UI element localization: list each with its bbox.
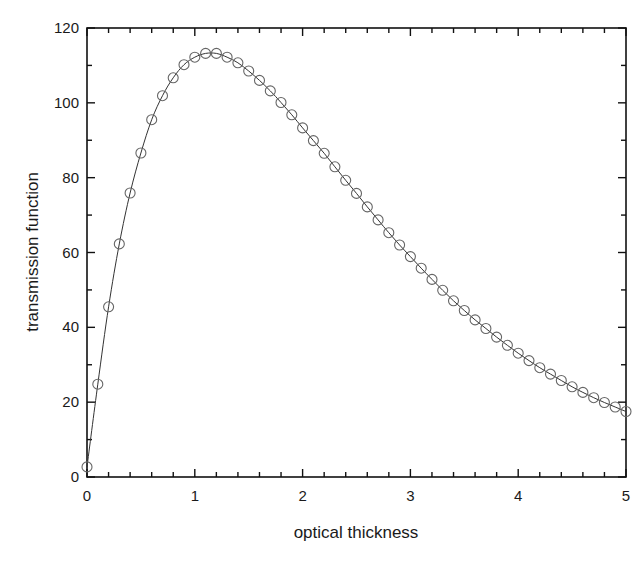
x-axis-title: optical thickness [294,523,419,542]
y-tick-label: 0 [71,468,79,485]
y-tick-label: 60 [62,244,79,261]
y-axis-title: transmission function [23,172,42,332]
x-tick-label: 2 [298,487,306,504]
x-tick-label: 5 [622,487,630,504]
y-tick-label: 80 [62,169,79,186]
y-tick-label: 100 [54,94,79,111]
x-tick-label: 1 [191,487,199,504]
y-tick-label: 120 [54,19,79,36]
x-tick-label: 3 [406,487,414,504]
transmission-chart: 012345 020406080100120 optical thickness… [0,0,643,565]
y-axis-tick-labels: 020406080100120 [54,19,79,485]
plot-area: 012345 020406080100120 [54,19,631,504]
series-line [87,53,626,467]
series-markers [82,48,631,472]
x-axis-tick-labels: 012345 [83,487,630,504]
x-tick-label: 4 [514,487,522,504]
y-tick-label: 40 [62,318,79,335]
y-tick-label: 20 [62,393,79,410]
x-tick-label: 0 [83,487,91,504]
